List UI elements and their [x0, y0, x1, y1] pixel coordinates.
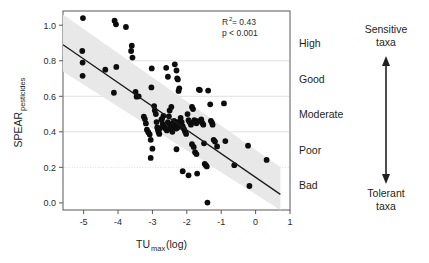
quality-class-label: Good: [299, 73, 325, 85]
data-point: [264, 157, 270, 163]
y-axis-title-sub: pesticides: [18, 77, 27, 111]
data-point: [159, 116, 165, 122]
data-point: [197, 87, 203, 93]
sensitive-taxa-line2: taxa: [376, 36, 396, 48]
data-point: [190, 106, 196, 112]
data-point: [175, 77, 181, 83]
y-tick-label: 0.6: [43, 92, 56, 102]
data-point: [148, 137, 154, 143]
y-tick-label: 0.8: [43, 56, 56, 66]
data-point: [111, 90, 117, 96]
y-tick-label: 1.0: [43, 21, 56, 31]
data-point: [102, 67, 108, 73]
data-point: [204, 164, 210, 170]
data-point: [194, 171, 200, 177]
y-axis-title-main: SPEAR: [12, 112, 24, 148]
x-axis-title-tail: (log): [166, 238, 187, 250]
data-point: [174, 146, 180, 152]
data-point: [191, 144, 197, 150]
quality-class-label: Poor: [299, 144, 322, 156]
data-point: [80, 73, 86, 79]
quality-class-label: Bad: [299, 179, 318, 191]
x-axis-title-sub: max: [151, 244, 165, 253]
x-tick-label: 1: [287, 217, 292, 227]
quality-class-label: High: [299, 37, 321, 49]
data-point: [222, 138, 228, 144]
data-point: [172, 61, 178, 67]
x-tick-label: -4: [114, 217, 122, 227]
data-point: [80, 60, 86, 66]
figure-container: -5-4-3-2-101 0.00.20.40.60.81.0 TU max (…: [0, 0, 429, 263]
data-point: [149, 65, 155, 71]
data-point: [205, 200, 211, 206]
data-point: [80, 15, 86, 21]
x-tick-label: -3: [148, 217, 156, 227]
x-tick-label: 0: [253, 217, 258, 227]
data-point: [186, 172, 192, 178]
data-point: [210, 122, 216, 128]
data-point: [180, 168, 186, 174]
data-point: [247, 183, 253, 189]
r-squared-value: = 0.43: [232, 17, 256, 27]
r-squared-prefix: R: [222, 17, 228, 27]
data-point: [156, 131, 162, 137]
p-value: p < 0.001: [222, 28, 258, 38]
data-point: [200, 122, 206, 128]
x-tick-label: -1: [217, 217, 225, 227]
scatter-plot: -5-4-3-2-101 0.00.20.40.60.81.0 TU max (…: [0, 0, 429, 263]
data-point: [113, 21, 119, 27]
data-point: [205, 88, 211, 94]
data-point: [143, 121, 149, 127]
data-point: [129, 43, 135, 49]
y-tick-label: 0.4: [43, 127, 56, 137]
data-point: [168, 104, 174, 110]
sensitive-taxa-line1: Sensitive: [365, 23, 408, 35]
data-point: [165, 74, 171, 80]
data-point: [207, 101, 213, 107]
data-point: [147, 132, 153, 138]
data-point: [176, 85, 182, 91]
data-point: [163, 65, 169, 71]
x-tick-label: -2: [183, 217, 191, 227]
data-point: [128, 48, 134, 54]
y-tick-label: 0.0: [43, 198, 56, 208]
data-point: [130, 55, 136, 61]
data-point: [79, 48, 85, 54]
x-axis-title-main: TU: [136, 238, 150, 250]
data-point: [183, 131, 189, 137]
tolerant-taxa-line2: taxa: [376, 200, 396, 212]
data-point: [221, 100, 227, 106]
quality-class-label: Moderate: [299, 108, 344, 120]
x-tick-label: -5: [80, 217, 88, 227]
data-point: [153, 111, 159, 117]
data-point: [214, 143, 220, 149]
data-point: [148, 155, 154, 161]
data-point: [123, 24, 129, 30]
data-point: [245, 143, 251, 149]
data-point: [113, 64, 119, 70]
data-point: [150, 146, 156, 152]
y-tick-label: 0.2: [43, 163, 56, 173]
tolerant-taxa-line1: Tolerant: [367, 187, 404, 199]
data-point: [174, 68, 180, 74]
data-point: [185, 111, 191, 117]
data-point: [194, 151, 200, 157]
data-point: [148, 85, 154, 91]
